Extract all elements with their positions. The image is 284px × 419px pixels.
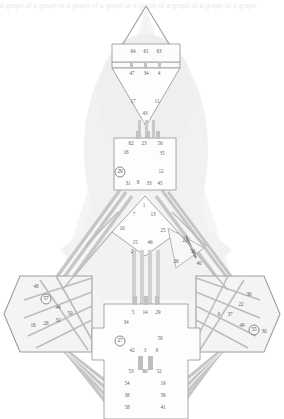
node-label[interactable]: 16 <box>123 150 128 155</box>
node-label[interactable]: 32 <box>55 318 60 323</box>
node-label[interactable]: 29 <box>117 169 122 174</box>
node-label[interactable]: 42 <box>129 348 134 353</box>
node-label[interactable]: 27 <box>117 338 122 343</box>
node-label[interactable]: 26 <box>173 259 178 264</box>
node-label[interactable]: 11 <box>155 99 160 104</box>
node-label[interactable]: 44 <box>55 305 60 310</box>
node-label[interactable]: 38 <box>124 393 129 398</box>
node-label[interactable]: 43 <box>142 111 147 116</box>
node-label[interactable]: 21 <box>182 238 187 243</box>
node-label[interactable]: 52 <box>156 369 161 374</box>
node-label[interactable]: 60 <box>142 369 147 374</box>
node-label[interactable]: 62 <box>128 141 133 146</box>
node-label[interactable]: 57 <box>43 296 48 301</box>
node-label[interactable]: 64 <box>130 49 135 54</box>
graph-svg <box>0 0 284 419</box>
node-label[interactable]: 12 <box>158 169 163 174</box>
node-label[interactable]: 35 <box>159 151 164 156</box>
node-label[interactable]: 45 <box>157 181 162 186</box>
node-label[interactable]: 34 <box>143 71 148 76</box>
node-label[interactable]: 6 <box>218 312 221 317</box>
node-label[interactable]: 39 <box>160 393 165 398</box>
node-label[interactable]: 15 <box>132 240 137 245</box>
node-label[interactable]: 18 <box>30 323 35 328</box>
node-label[interactable]: 23 <box>141 141 146 146</box>
node-label[interactable]: 59 <box>157 336 162 341</box>
left-arrow-region <box>4 276 92 352</box>
node-label[interactable]: 1 <box>143 203 146 208</box>
node-label[interactable]: 30 <box>261 329 266 334</box>
node-label[interactable]: 31 <box>125 181 130 186</box>
node-label[interactable]: 63 <box>156 49 161 54</box>
node-label[interactable]: 50 <box>67 311 72 316</box>
node-label[interactable]: 34 <box>123 320 128 325</box>
node-label[interactable]: 3 <box>144 348 147 353</box>
node-label[interactable]: 28 <box>43 321 48 326</box>
node-label[interactable]: 55 <box>251 327 256 332</box>
node-label[interactable]: 40 <box>196 261 201 266</box>
node-label[interactable]: 61 <box>143 49 148 54</box>
node-label[interactable]: 41 <box>160 405 165 410</box>
node-label[interactable]: 8 <box>137 180 140 185</box>
node-label[interactable]: 13 <box>150 212 155 217</box>
node-label[interactable]: 10 <box>119 226 124 231</box>
node-label[interactable]: 56 <box>157 141 162 146</box>
node-label[interactable]: 14 <box>142 310 147 315</box>
node-label[interactable]: 58 <box>124 405 129 410</box>
node-label[interactable]: 49 <box>239 323 244 328</box>
node-label[interactable]: 48 <box>33 284 38 289</box>
node-label[interactable]: 46 <box>147 240 152 245</box>
node-label[interactable]: 7 <box>133 212 136 217</box>
node-label[interactable]: 36 <box>246 292 251 297</box>
node-label[interactable]: 37 <box>227 312 232 317</box>
node-label[interactable]: 2 <box>131 249 134 254</box>
node-label[interactable]: 29 <box>155 310 160 315</box>
node-label[interactable]: 54 <box>124 381 129 386</box>
diagram-canvas: a graph of a graph of a graph of a graph… <box>0 0 284 419</box>
node-label[interactable]: 19 <box>160 381 165 386</box>
node-label[interactable]: 33 <box>146 181 151 186</box>
node-label[interactable]: 9 <box>156 348 159 353</box>
node-label[interactable]: 53 <box>128 369 133 374</box>
node-label[interactable]: 51 <box>190 249 195 254</box>
node-label[interactable]: 47 <box>129 71 134 76</box>
node-label[interactable]: 25 <box>160 228 165 233</box>
node-label[interactable]: 5 <box>132 310 135 315</box>
node-label[interactable]: 22 <box>238 302 243 307</box>
node-label[interactable]: 4 <box>158 71 161 76</box>
node-label[interactable]: 17 <box>130 99 135 104</box>
